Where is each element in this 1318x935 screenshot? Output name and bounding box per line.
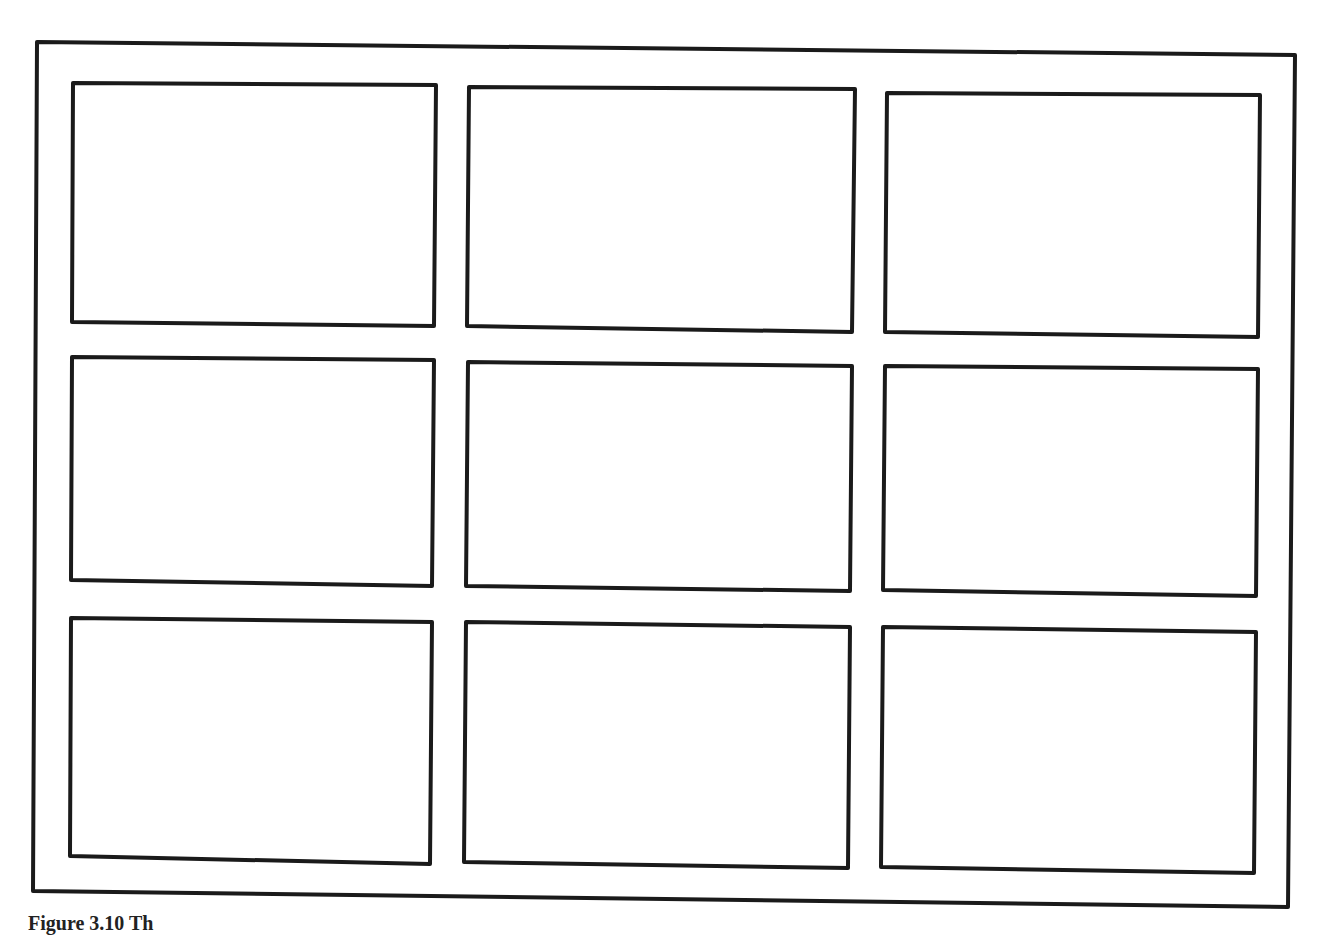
grid-cell-r3c1 bbox=[70, 618, 432, 864]
figure-caption: Figure 3.10 Th bbox=[28, 912, 153, 935]
outer-frame bbox=[33, 42, 1295, 907]
grid-cells bbox=[70, 83, 1260, 873]
grid-cell-r3c3 bbox=[881, 627, 1256, 873]
grid-cell-r2c3 bbox=[883, 366, 1258, 596]
grid-cell-r2c2 bbox=[466, 362, 852, 591]
grid-cell-r2c1 bbox=[71, 357, 434, 586]
grid-cell-r3c2 bbox=[464, 622, 850, 868]
grid-cell-r1c2 bbox=[467, 87, 855, 332]
grid-cell-r1c1 bbox=[72, 83, 436, 326]
grid-cell-r1c3 bbox=[885, 93, 1260, 337]
